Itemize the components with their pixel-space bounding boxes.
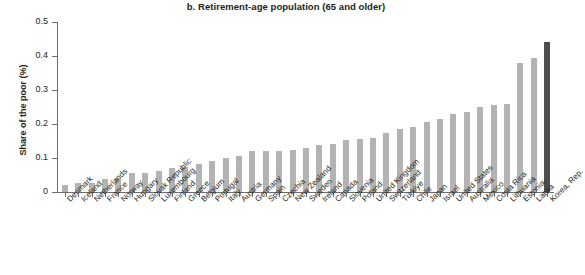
y-axis-tick [52,192,57,193]
y-axis-tick [52,124,57,125]
bar [450,114,456,192]
bar [464,112,470,192]
y-axis-tick-label: 0.4 [0,51,48,60]
y-axis-tick-label: 0.2 [0,119,48,128]
y-axis-tick-label: 0.1 [0,153,48,162]
y-axis-tick-label: 0.5 [0,17,48,26]
y-axis-tick [52,90,57,91]
bar [424,122,430,192]
plot-area [58,22,554,192]
bar [504,104,510,192]
y-axis-tick [52,22,57,23]
y-axis-tick-label: 0.3 [0,85,48,94]
bar [62,185,68,192]
y-axis-tick [52,56,57,57]
x-axis-tick-label: Korea, Rep. [549,168,585,204]
y-axis-tick [52,158,57,159]
bar [544,42,550,192]
y-axis-tick-label: 0 [0,187,48,196]
chart-title: b. Retirement-age population (65 and old… [0,1,572,12]
bar [531,58,537,192]
